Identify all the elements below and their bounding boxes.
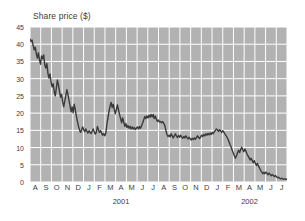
x-tick-label: N [65,183,70,192]
y-tick-label: 40 [16,41,24,48]
x-tick-label: F [226,183,231,192]
y-tick-label: 45 [16,24,24,31]
x-year-label: 2001 [113,197,130,206]
x-tick-label: J [216,183,220,192]
x-tick-label: N [193,183,198,192]
y-tick-label: 25 [16,92,24,99]
x-tick-label: A [247,183,252,192]
y-tick-label: 5 [20,161,24,168]
y-tick-label: 30 [16,75,24,82]
x-tick-label: A [161,183,166,192]
x-tick-label: M [236,183,242,192]
x-tick-label: M [129,183,135,192]
y-tick-label: 20 [16,110,24,117]
x-tick-label: J [269,183,273,192]
x-tick-label: D [204,183,209,192]
x-tick-label: S [44,183,49,192]
chart-title: Share price ($) [33,11,91,21]
x-tick-label: S [172,183,177,192]
share-price-chart: Share price ($) 051015202530354045 ASOND… [0,0,305,221]
y-axis-tick-labels: 051015202530354045 [0,27,28,182]
x-axis-tick-labels: ASONDJFMAMJJASONDJFMAMJJ [30,183,287,197]
x-tick-label: O [182,183,188,192]
x-tick-label: D [75,183,80,192]
y-tick-label: 35 [16,58,24,65]
x-tick-label: M [107,183,113,192]
x-axis-year-labels: 20012002 [30,197,287,211]
x-tick-label: F [97,183,102,192]
series-share-price [30,27,287,182]
x-tick-label: J [151,183,155,192]
x-tick-label: J [87,183,91,192]
y-tick-label: 15 [16,127,24,134]
y-tick-label: 0 [20,179,24,186]
x-tick-label: A [33,183,38,192]
x-year-label: 2002 [241,197,258,206]
y-tick-label: 10 [16,144,24,151]
x-tick-label: J [141,183,145,192]
plot-area [30,27,287,182]
x-tick-label: M [257,183,263,192]
x-tick-label: O [54,183,60,192]
x-tick-label: J [280,183,284,192]
x-tick-label: A [119,183,124,192]
